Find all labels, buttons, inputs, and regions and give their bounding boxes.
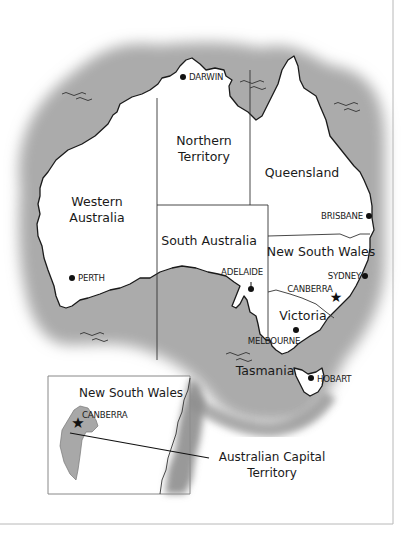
sydney-dot-icon: [362, 273, 368, 279]
perth-dot-icon: [69, 275, 75, 281]
label-darwin: DARWIN: [189, 72, 223, 82]
inset-title: New South Wales: [79, 386, 183, 400]
label-tasmania: Tasmania: [235, 363, 295, 378]
label-canberra: CANBERRA: [287, 284, 333, 294]
label-western-australia-2: Australia: [69, 210, 124, 225]
adelaide-dot-icon: [248, 286, 254, 292]
label-victoria: Victoria: [279, 308, 326, 323]
label-new-south-wales: New South Wales: [267, 244, 375, 259]
label-south-australia: South Australia: [161, 233, 257, 248]
label-western-australia: Western: [71, 194, 122, 209]
label-brisbane: BRISBANE: [321, 211, 363, 221]
callout-label-2: Territory: [246, 466, 297, 480]
brisbane-dot-icon: [366, 213, 372, 219]
melbourne-dot-icon: [293, 327, 299, 333]
label-queensland: Queensland: [265, 165, 340, 180]
inset-label-canberra: CANBERRA: [82, 410, 128, 420]
callout-label: Australian Capital: [219, 450, 326, 464]
label-perth: PERTH: [78, 273, 105, 283]
label-melbourne: MELBOURNE: [248, 336, 300, 346]
label-hobart: HOBART: [317, 374, 352, 384]
label-sydney: SYDNEY: [328, 271, 362, 281]
australia-map: Western Australia Northern Territory Que…: [0, 0, 414, 537]
darwin-dot-icon: [180, 74, 186, 80]
label-adelaide: ADELAIDE: [221, 267, 263, 277]
label-northern-territory-2: Territory: [177, 149, 230, 164]
label-northern-territory: Northern: [176, 133, 232, 148]
hobart-dot-icon: [308, 375, 314, 381]
